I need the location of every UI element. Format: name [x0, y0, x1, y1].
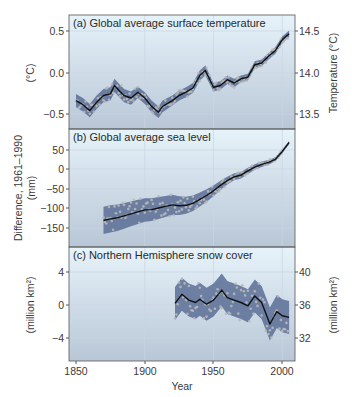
- panel-b-title: (b) Global average sea level: [73, 131, 211, 143]
- x-axis: 1850 1900 1950 2000 Year: [64, 361, 294, 392]
- tick-label: 14.5: [299, 25, 320, 37]
- panel-b-ylabel-line2: (mm): [25, 176, 37, 201]
- panel-b-ylabel-line1: Difference, 1961–1990: [12, 135, 24, 241]
- tick-label: 0.0: [49, 67, 64, 79]
- tick-label: 0: [58, 299, 64, 311]
- tick-label: −0.5: [43, 108, 64, 120]
- panel-a-right-axis: 14.5 14.0 13.5 Temperature (°C): [295, 25, 339, 120]
- tick-label: 0.5: [49, 25, 64, 37]
- tick-label: 32: [299, 332, 311, 344]
- panel-c-ylabel-left: (million km²): [24, 276, 36, 333]
- tick-label: 50: [52, 144, 64, 156]
- tick-label: −150: [40, 222, 64, 234]
- panel-c-left-axis: 4 0 −4 (million km²): [24, 266, 69, 344]
- tick-label: 14.0: [299, 67, 320, 79]
- panel-c-title: (c) Northern Hemisphere snow cover: [73, 249, 253, 261]
- climate-indicators-figure: (a) Global average surface temperature (…: [0, 0, 352, 397]
- tick-label: −100: [40, 202, 64, 214]
- panel-a-background: [69, 15, 295, 129]
- x-tick-label: 1900: [133, 365, 157, 377]
- tick-label: 4: [58, 266, 64, 278]
- x-tick-label: 2000: [270, 365, 294, 377]
- panel-a-ylabel-left: (°C): [24, 64, 36, 83]
- tick-label: −4: [52, 332, 64, 344]
- panel-a-ylabel-right: Temperature (°C): [327, 33, 339, 114]
- panel-c-right-axis: 40 36 32 (million km²): [295, 266, 339, 344]
- panel-a-title: (a) Global average surface temperature: [73, 17, 266, 29]
- x-tick-label: 1950: [201, 365, 225, 377]
- x-axis-label: Year: [171, 380, 193, 392]
- panel-b-left-axis: 50 0 −50 −100 −150 Difference, 1961–1990…: [12, 135, 69, 241]
- panel-b-background: [69, 129, 295, 247]
- tick-label: 0: [58, 163, 64, 175]
- tick-label: 13.5: [299, 108, 320, 120]
- panel-c-ylabel-right: (million km²): [327, 276, 339, 333]
- tick-label: −50: [46, 183, 64, 195]
- panel-a-left-axis: 0.5 0.0 −0.5 (°C): [24, 25, 69, 120]
- tick-label: 40: [299, 266, 311, 278]
- x-tick-label: 1850: [64, 365, 88, 377]
- tick-label: 36: [299, 299, 311, 311]
